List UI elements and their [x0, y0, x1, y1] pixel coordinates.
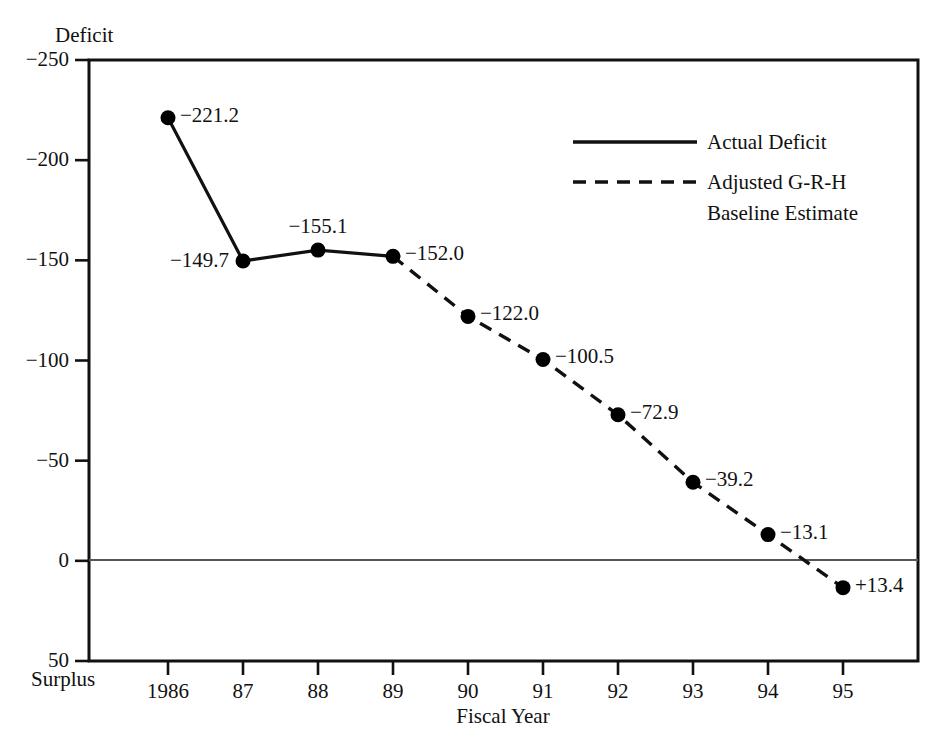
y-tick-label-0: −250	[26, 49, 69, 70]
y-axis-title: Deficit	[55, 25, 113, 46]
data-point-marker	[236, 253, 251, 268]
x-tick-label-5: 91	[533, 681, 554, 702]
data-point-marker	[461, 309, 476, 324]
actual-deficit-line	[168, 118, 393, 261]
x-tick-label-1: 87	[233, 681, 254, 702]
x-tick-label-0: 1986	[147, 681, 189, 702]
y-tick-label-2: −150	[26, 249, 69, 270]
legend-label-actual-deficit: Actual Deficit	[707, 132, 827, 153]
x-tick-label-4: 90	[458, 681, 479, 702]
y-tick-label-6: 50	[48, 650, 69, 671]
x-tick-label-6: 92	[608, 681, 629, 702]
data-point-label-94: −13.1	[780, 522, 829, 543]
data-point-label-93: −39.2	[705, 469, 754, 490]
x-tick-label-9: 95	[833, 681, 854, 702]
legend-label-grh-line2: Baseline Estimate	[707, 203, 858, 224]
legend-label-grh-line1: Adjusted G-R-H	[707, 172, 846, 193]
y-tick-label-1: −200	[26, 149, 69, 170]
data-point-marker	[761, 527, 776, 542]
data-point-marker	[536, 352, 551, 367]
data-point-marker	[386, 249, 401, 264]
data-point-marker	[161, 110, 176, 125]
data-point-marker	[836, 580, 851, 595]
data-point-label-87: −149.7	[170, 250, 229, 271]
data-point-label-91: −100.5	[555, 346, 614, 367]
x-tick-label-8: 94	[758, 681, 779, 702]
x-tick-label-7: 93	[683, 681, 704, 702]
x-tick-label-3: 89	[383, 681, 404, 702]
data-point-label-89: −152.0	[405, 243, 464, 264]
data-point-label-92: −72.9	[630, 402, 679, 423]
data-point-label-95: +13.4	[855, 575, 904, 596]
data-point-marker	[311, 243, 326, 258]
y-tick-label-4: −50	[36, 450, 69, 471]
y-axis-title-bottom: Surplus	[31, 669, 95, 690]
data-point-label-88: −155.1	[288, 216, 347, 237]
y-axis-ticks	[75, 60, 89, 661]
y-tick-label-5: 0	[59, 550, 70, 571]
chart-canvas	[0, 0, 950, 744]
x-axis-ticks	[168, 661, 843, 675]
data-point-label-90: −122.0	[480, 303, 539, 324]
x-tick-label-2: 88	[308, 681, 329, 702]
y-tick-label-3: −100	[26, 350, 69, 371]
data-point-marker	[686, 475, 701, 490]
data-point-marker	[611, 407, 626, 422]
deficit-chart-figure: Deficit Surplus Fiscal Year Actual Defic…	[0, 0, 950, 744]
x-axis-title: Fiscal Year	[456, 706, 549, 727]
data-point-label-1986: −221.2	[180, 105, 239, 126]
